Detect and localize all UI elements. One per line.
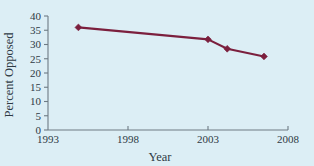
data-point-marker xyxy=(224,45,231,52)
axis-tick-marks xyxy=(44,16,288,130)
x-tick-label: 1993 xyxy=(37,133,60,145)
chart-container: 0510152025303540 1993199820032008 Percen… xyxy=(0,0,314,166)
x-tick-label: 1998 xyxy=(117,133,140,145)
data-point-marker xyxy=(75,24,82,31)
line-chart: 0510152025303540 1993199820032008 Percen… xyxy=(0,0,314,166)
y-tick-label: 15 xyxy=(30,81,42,93)
x-tick-label: 2008 xyxy=(277,133,300,145)
y-tick-label: 35 xyxy=(30,24,42,36)
y-axis-title: Percent Opposed xyxy=(2,32,16,118)
y-tick-label: 25 xyxy=(30,53,42,65)
y-tick-label: 5 xyxy=(36,110,42,122)
x-tick-label: 2003 xyxy=(197,133,220,145)
y-tick-label: 20 xyxy=(30,67,42,79)
x-axis-title: Year xyxy=(148,150,172,164)
y-tick-label: 10 xyxy=(30,95,42,107)
y-axis-tick-labels: 0510152025303540 xyxy=(30,10,42,136)
y-tick-label: 40 xyxy=(30,10,42,22)
y-tick-label: 30 xyxy=(30,38,42,50)
data-series-line xyxy=(78,27,264,56)
data-point-marker xyxy=(261,53,268,60)
data-point-marker xyxy=(205,36,212,43)
x-axis-tick-labels: 1993199820032008 xyxy=(37,133,300,145)
